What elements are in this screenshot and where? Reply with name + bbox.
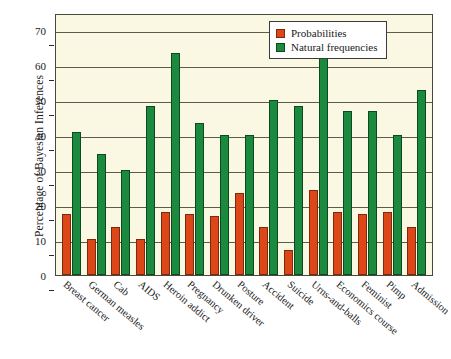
y-tick-mark bbox=[49, 290, 54, 291]
y-tick-label: 20 bbox=[24, 200, 46, 212]
bar-probabilities[interactable] bbox=[407, 227, 416, 275]
bar-probabilities[interactable] bbox=[185, 214, 194, 275]
bar-group bbox=[133, 15, 158, 275]
y-tick-mark bbox=[49, 220, 54, 221]
bar-group bbox=[59, 15, 84, 275]
plot-area: Probabilities Natural frequencies bbox=[55, 14, 433, 276]
bar-probabilities[interactable] bbox=[136, 239, 145, 275]
bar-probabilities[interactable] bbox=[111, 227, 120, 275]
legend-label-probabilities: Probabilities bbox=[291, 26, 347, 40]
x-label-slot: Cab bbox=[108, 276, 133, 359]
bar-probabilities[interactable] bbox=[161, 212, 170, 275]
legend-item-natural-frequencies: Natural frequencies bbox=[276, 40, 377, 54]
bar-probabilities[interactable] bbox=[259, 227, 268, 275]
y-tick-mark bbox=[49, 150, 54, 151]
legend-label-natural-frequencies: Natural frequencies bbox=[291, 40, 377, 54]
y-tick-mark bbox=[49, 115, 54, 116]
bar-group bbox=[158, 15, 183, 275]
bar-natural-frequencies[interactable] bbox=[393, 135, 402, 275]
bar-natural-frequencies[interactable] bbox=[269, 100, 278, 275]
x-label-slot: Heroin addict bbox=[157, 276, 182, 359]
y-tick-mark bbox=[49, 80, 54, 81]
x-label-slot: Urns-and-balls bbox=[306, 276, 331, 359]
bar-group bbox=[108, 15, 133, 275]
bar-natural-frequencies[interactable] bbox=[417, 90, 426, 275]
legend-swatch-natural-frequencies bbox=[276, 43, 285, 52]
x-label-slot: AIDS bbox=[132, 276, 157, 359]
bar-probabilities[interactable] bbox=[383, 212, 392, 275]
bar-group bbox=[232, 15, 257, 275]
bar-probabilities[interactable] bbox=[210, 216, 219, 275]
bar-natural-frequencies[interactable] bbox=[368, 111, 377, 275]
bar-probabilities[interactable] bbox=[62, 214, 71, 275]
legend-item-probabilities: Probabilities bbox=[276, 26, 377, 40]
bar-group bbox=[182, 15, 207, 275]
x-label-slot: Pimp bbox=[380, 276, 405, 359]
bar-natural-frequencies[interactable] bbox=[245, 135, 254, 275]
bar-natural-frequencies[interactable] bbox=[146, 106, 155, 275]
bar-probabilities[interactable] bbox=[358, 214, 367, 275]
bar-probabilities[interactable] bbox=[333, 212, 342, 275]
bar-probabilities[interactable] bbox=[284, 250, 293, 275]
x-axis-category-labels: Breast cancerGerman measlesCabAIDSHeroin… bbox=[55, 276, 433, 359]
bar-group bbox=[404, 15, 429, 275]
y-tick-label: 10 bbox=[24, 235, 46, 247]
x-label-slot: Feminist bbox=[356, 276, 381, 359]
bar-natural-frequencies[interactable] bbox=[319, 58, 328, 275]
x-label-slot: Posture bbox=[232, 276, 257, 359]
bar-probabilities[interactable] bbox=[309, 190, 318, 275]
y-tick-label: 70 bbox=[24, 25, 46, 37]
x-tick-label: Admission bbox=[409, 279, 451, 317]
bar-group bbox=[84, 15, 109, 275]
x-label-slot: Breast cancer bbox=[58, 276, 83, 359]
y-tick-mark bbox=[49, 255, 54, 256]
bar-natural-frequencies[interactable] bbox=[121, 170, 130, 275]
y-axis-tick-labels: 010203040506070 bbox=[24, 0, 46, 359]
y-tick-label: 50 bbox=[24, 95, 46, 107]
y-tick-label: 60 bbox=[24, 60, 46, 72]
legend: Probabilities Natural frequencies bbox=[269, 21, 387, 59]
y-tick-mark bbox=[49, 185, 54, 186]
x-tick-label: Cab bbox=[111, 279, 131, 298]
bar-probabilities[interactable] bbox=[87, 239, 96, 275]
x-label-slot: Economics course bbox=[331, 276, 356, 359]
y-tick-mark bbox=[49, 45, 54, 46]
bar-natural-frequencies[interactable] bbox=[72, 132, 81, 275]
bar-natural-frequencies[interactable] bbox=[195, 123, 204, 275]
bar-natural-frequencies[interactable] bbox=[220, 135, 229, 275]
bar-probabilities[interactable] bbox=[235, 193, 244, 275]
x-label-slot: Admission bbox=[405, 276, 430, 359]
x-label-slot: Pregnancy bbox=[182, 276, 207, 359]
x-label-slot: Accident bbox=[256, 276, 281, 359]
bar-natural-frequencies[interactable] bbox=[97, 154, 106, 275]
x-label-slot: German measles bbox=[83, 276, 108, 359]
y-tick-label: 0 bbox=[24, 270, 46, 282]
y-tick-label: 40 bbox=[24, 130, 46, 142]
bar-natural-frequencies[interactable] bbox=[171, 53, 180, 275]
x-label-slot: Suicide bbox=[281, 276, 306, 359]
legend-swatch-probabilities bbox=[276, 29, 285, 38]
bar-group bbox=[207, 15, 232, 275]
bar-natural-frequencies[interactable] bbox=[294, 106, 303, 275]
y-tick-label: 30 bbox=[24, 165, 46, 177]
bar-natural-frequencies[interactable] bbox=[343, 111, 352, 275]
x-label-slot: Drunken driver bbox=[207, 276, 232, 359]
